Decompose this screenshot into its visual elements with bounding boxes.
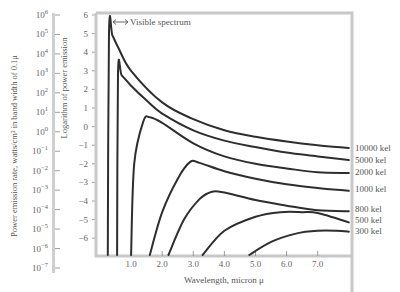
curve-label: 500 kel bbox=[355, 215, 382, 225]
curve-label: 5000 kel bbox=[355, 155, 387, 165]
svg-text:1.0: 1.0 bbox=[125, 259, 137, 269]
power-tick-labels: 10610510410310210110010−110−210−310−410−… bbox=[32, 8, 60, 273]
svg-text:105: 105 bbox=[36, 27, 48, 39]
svg-text:3.0: 3.0 bbox=[188, 259, 200, 269]
log-tick-labels: 6543210−1−2−3−4−5−6 bbox=[78, 10, 97, 243]
svg-text:2.0: 2.0 bbox=[157, 259, 169, 269]
svg-text:10−5: 10−5 bbox=[32, 222, 48, 234]
svg-text:106: 106 bbox=[36, 8, 49, 20]
svg-text:−1: −1 bbox=[78, 140, 88, 150]
svg-text:4: 4 bbox=[84, 47, 89, 57]
svg-text:−4: −4 bbox=[78, 196, 88, 206]
plot-frame-top-right bbox=[96, 13, 352, 292]
curve-300-kel bbox=[249, 231, 348, 255]
svg-text:6.0: 6.0 bbox=[281, 259, 293, 269]
svg-text:−6: −6 bbox=[78, 233, 88, 243]
curve-label: 300 kel bbox=[355, 226, 382, 236]
svg-text:−3: −3 bbox=[78, 177, 88, 187]
svg-text:5.0: 5.0 bbox=[250, 259, 262, 269]
svg-text:102: 102 bbox=[36, 86, 48, 98]
svg-text:0: 0 bbox=[84, 122, 89, 132]
svg-text:103: 103 bbox=[36, 66, 48, 78]
curve-label: 10000 kel bbox=[355, 143, 391, 153]
double-arrow-icon bbox=[113, 20, 128, 25]
blackbody-radiation-chart: Power emission rate, watts/cm² in band w… bbox=[0, 0, 400, 292]
left-axis-title: Power emission rate, watts/cm² in band w… bbox=[9, 55, 19, 237]
log-axis-title: Logarithm of power emission bbox=[59, 37, 69, 139]
svg-text:−2: −2 bbox=[78, 159, 88, 169]
svg-text:1: 1 bbox=[84, 103, 89, 113]
svg-text:104: 104 bbox=[36, 47, 49, 59]
svg-text:10−7: 10−7 bbox=[32, 261, 49, 273]
svg-text:6: 6 bbox=[84, 10, 89, 20]
curve-label: 800 kel bbox=[355, 204, 382, 214]
svg-text:4.0: 4.0 bbox=[219, 259, 231, 269]
svg-text:10−2: 10−2 bbox=[32, 164, 48, 176]
x-tick-labels: 1.02.03.04.05.06.07.0 bbox=[125, 251, 323, 269]
svg-text:3: 3 bbox=[84, 66, 89, 76]
svg-text:101: 101 bbox=[36, 105, 48, 117]
curve-800-kel bbox=[168, 191, 348, 255]
visible-spectrum-label: Visible spectrum bbox=[130, 17, 191, 27]
plot-frame-left-bottom bbox=[96, 13, 352, 256]
visible-spectrum-annotation: Visible spectrum bbox=[113, 17, 191, 27]
svg-text:10−6: 10−6 bbox=[32, 242, 49, 254]
curve-1000-kel bbox=[150, 161, 349, 255]
curve-10000-kel bbox=[108, 16, 349, 255]
svg-text:5: 5 bbox=[84, 29, 89, 39]
temperature-curves bbox=[108, 16, 349, 255]
curve-label: 1000 kel bbox=[355, 184, 387, 194]
svg-text:−5: −5 bbox=[78, 215, 88, 225]
svg-text:10−4: 10−4 bbox=[32, 203, 49, 215]
svg-text:10−1: 10−1 bbox=[32, 144, 48, 156]
svg-text:10−3: 10−3 bbox=[32, 183, 48, 195]
curve-label: 2000 kel bbox=[355, 167, 387, 177]
curve-2000-kel bbox=[131, 116, 349, 255]
svg-text:7.0: 7.0 bbox=[312, 259, 324, 269]
power-scale-bar bbox=[52, 13, 55, 273]
svg-text:100: 100 bbox=[36, 125, 48, 137]
x-axis-title: Wavelength, micron μ bbox=[184, 275, 264, 285]
curve-500-kel bbox=[203, 212, 349, 255]
svg-text:2: 2 bbox=[84, 84, 89, 94]
curve-labels: 10000 kel5000 kel2000 kel1000 kel800 kel… bbox=[355, 143, 391, 236]
